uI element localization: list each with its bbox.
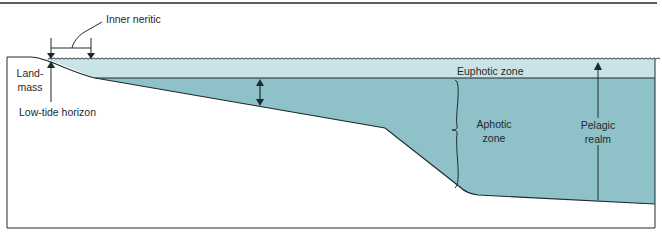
pelagic-realm-label-line2: realm [572, 133, 624, 145]
euphotic-zone-fill [46, 59, 655, 78]
pelagic-realm-label: Pelagic realm [572, 119, 624, 145]
landmass-label-line2: mass [12, 81, 48, 93]
landmass-label-line1: Land- [12, 67, 48, 79]
inner-neritic-bracket [47, 22, 102, 59]
landmass-label: Land- mass [12, 67, 48, 93]
aphotic-zone-label: Aphotic zone [466, 118, 522, 144]
water-surface [48, 58, 660, 59]
low-tide-arrow [47, 61, 55, 102]
aphotic-zone-label-line1: Aphotic [466, 118, 522, 130]
aphotic-zone-fill [95, 78, 655, 204]
inner-neritic-label: Inner neritic [106, 13, 161, 25]
pelagic-realm-label-line1: Pelagic [572, 119, 624, 131]
aphotic-zone-label-line2: zone [466, 132, 522, 144]
euphotic-zone-label: Euphotic zone [457, 65, 524, 77]
ocean-zones-diagram [0, 0, 662, 234]
low-tide-horizon-label: Low-tide horizon [19, 106, 96, 118]
